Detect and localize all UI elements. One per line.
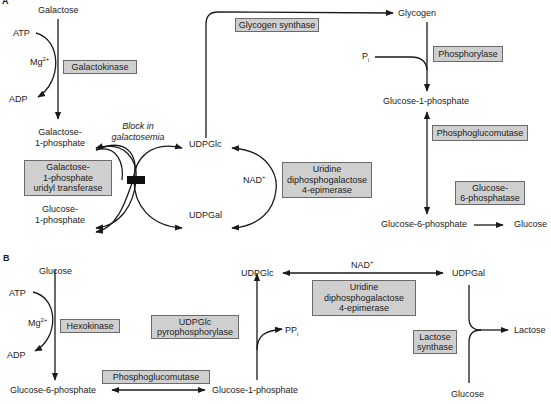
metabolite-udpglc: UDPGlc — [189, 139, 222, 150]
enzyme-phosphoglucomutase-b: Phosphoglucomutase — [102, 370, 210, 384]
metabolite-b-glucose-bottom: Glucose — [451, 389, 484, 400]
enzyme-udpglc-pyrophosphorylase: UDPGlc pyrophosphorylase — [151, 315, 239, 339]
metabolite-b-glucose-6-phosphate: Glucose-6-phosphate — [10, 385, 96, 396]
enzyme-phosphorylase: Phosphorylase — [433, 46, 503, 62]
enzyme-gal1p-uridyl-transferase: Galactose- 1-phosphate uridyl transferas… — [24, 160, 112, 196]
enzyme-epimerase-b: Uridine diphosphogalactose 4-epimerase — [312, 280, 416, 316]
cofactor-nad: NAD+ — [243, 175, 266, 186]
metabolite-glucose-1-phosphate-left: Glucose- 1-phosphate — [30, 204, 90, 226]
metabolite-galactose-1-phosphate: Galactose- 1-phosphate — [30, 127, 90, 149]
enzyme-epimerase-a: Uridine diphosphogalactose 4-epimerase — [282, 162, 372, 198]
enzyme-phosphoglucomutase-a: Phosphoglucomutase — [432, 125, 528, 141]
metabolite-b-glucose-top: Glucose — [39, 266, 72, 277]
metabolite-atp: ATP — [13, 28, 30, 39]
enzyme-lactose-synthase: Lactose synthase — [413, 330, 457, 354]
metabolite-b-lactose: Lactose — [514, 325, 546, 336]
metabolite-glycogen: Glycogen — [398, 8, 436, 19]
block-in-galactosemia-annotation: Block in galactosemia — [108, 121, 168, 143]
enzyme-glucose-6-phosphatase: Glucose- 6-phosphatase — [455, 181, 525, 205]
metabolite-glucose-6-phosphate: Glucose-6-phosphate — [381, 219, 467, 230]
enzyme-glycogen-synthase: Glycogen synthase — [235, 18, 319, 32]
arrow-b-ppi — [257, 329, 282, 350]
panel-b-label: B — [3, 253, 10, 263]
metabolite-b-adp: ADP — [7, 350, 26, 361]
metabolite-galactose: Galactose — [38, 5, 79, 16]
metabolite-pi: Pi — [362, 51, 369, 62]
line-glucose-in — [469, 330, 481, 383]
metabolite-udpgal: UDPGal — [189, 210, 222, 221]
arc-epimerase — [232, 148, 276, 228]
metabolite-mg: Mg2+ — [30, 57, 49, 68]
metabolite-b-mg: Mg2+ — [28, 318, 47, 329]
enzyme-hexokinase: Hexokinase — [60, 319, 120, 333]
metabolite-adp: ADP — [9, 94, 28, 105]
galactosemia-block-bar — [127, 176, 145, 184]
metabolite-b-udpglc: UDPGlc — [241, 268, 274, 279]
enzyme-galactokinase: Galactokinase — [63, 60, 137, 74]
line-pi — [375, 57, 427, 70]
metabolite-b-udpgal: UDPGal — [452, 268, 485, 279]
panel-a-label: A — [2, 0, 9, 6]
arc-right — [134, 146, 182, 228]
metabolite-b-glucose-1-phosphate: Glucose-1-phosphate — [212, 385, 298, 396]
metabolite-glucose-1-phosphate: Glucose-1-phosphate — [383, 96, 469, 107]
cofactor-b-nad: NAD+ — [351, 260, 374, 271]
metabolite-b-atp: ATP — [9, 288, 26, 299]
metabolite-b-ppi: PPi — [285, 325, 298, 336]
metabolite-glucose: Glucose — [514, 219, 547, 230]
line-udpgal-in — [469, 285, 481, 330]
